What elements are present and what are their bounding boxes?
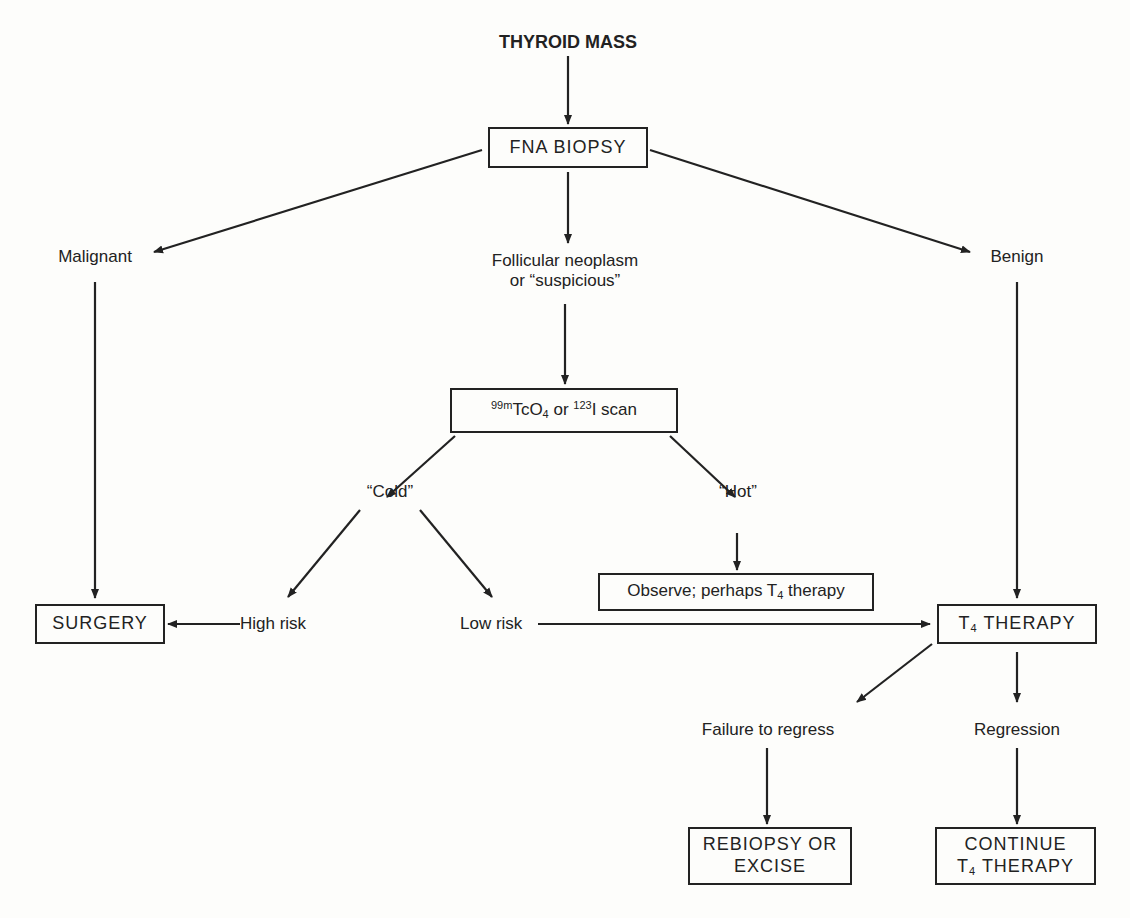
benign-label: Benign: [991, 247, 1044, 266]
hot-label: “Hot”: [719, 482, 757, 501]
continue-line-2: T4 THERAPY: [957, 856, 1074, 878]
high-risk-label: High risk: [240, 614, 306, 633]
regression-label: Regression: [974, 720, 1060, 739]
node-low-risk: Low risk: [460, 614, 540, 634]
node-rebiopsy-or-excise: REBIOPSY OR EXCISE: [688, 827, 852, 885]
thyroid-mass-label: THYROID MASS: [499, 32, 637, 52]
cold-label: “Cold”: [367, 482, 413, 501]
node-follicular-neoplasm: Follicular neoplasm or “suspicious”: [470, 251, 660, 292]
surgery-label: SURGERY: [52, 613, 148, 635]
node-benign: Benign: [972, 247, 1062, 267]
node-regression: Regression: [967, 720, 1067, 740]
node-fna-biopsy: FNA BIOPSY: [488, 127, 648, 168]
node-thyroid-mass: THYROID MASS: [498, 32, 638, 54]
rebiopsy-line-1: REBIOPSY OR: [703, 834, 838, 856]
node-cold: “Cold”: [350, 482, 430, 502]
node-scan: 99mTcO4 or 123I scan: [450, 388, 678, 433]
node-failure-to-regress: Failure to regress: [690, 720, 846, 740]
follicular-line-2: or “suspicious”: [470, 271, 660, 291]
node-malignant: Malignant: [40, 247, 150, 267]
fna-biopsy-label: FNA BIOPSY: [509, 137, 626, 159]
follicular-line-1: Follicular neoplasm: [470, 251, 660, 271]
thyroid-mass-flowchart: THYROID MASS FNA BIOPSY Malignant Follic…: [0, 0, 1130, 918]
node-high-risk: High risk: [240, 614, 330, 634]
rebiopsy-line-2: EXCISE: [734, 856, 806, 878]
malignant-label: Malignant: [58, 247, 132, 266]
node-observe: Observe; perhaps T4 therapy: [598, 573, 874, 611]
scan-isotope-2: 123: [573, 399, 591, 411]
continue-line-1: CONTINUE: [965, 834, 1067, 856]
node-surgery: SURGERY: [35, 604, 165, 644]
node-hot: “Hot”: [700, 482, 776, 502]
low-risk-label: Low risk: [460, 614, 522, 633]
node-t4-therapy: T4 THERAPY: [937, 604, 1097, 644]
failure-to-regress-label: Failure to regress: [702, 720, 834, 739]
node-continue-t4-therapy: CONTINUE T4 THERAPY: [935, 827, 1096, 885]
scan-isotope-1: 99m: [491, 399, 512, 411]
